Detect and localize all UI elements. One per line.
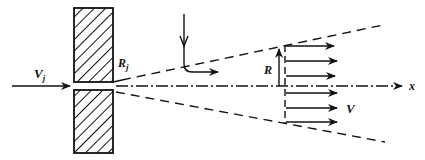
velocity-profile [286,46,337,122]
jet-radius-label: Rj [117,56,129,72]
nozzle-wall-lower [74,90,113,153]
velocity-label: V [346,101,356,116]
nozzle-wall-upper [74,8,113,82]
jet-boundary-lower [116,92,385,142]
diagram-canvas: Vj Rj x R [0,0,425,160]
inlet-velocity-label: Vj [34,66,46,83]
x-axis-label: x [408,79,415,93]
radius-label: R [263,63,272,77]
jet-boundary-upper [113,25,383,82]
jet-diagram: Vj Rj x R [0,0,425,160]
